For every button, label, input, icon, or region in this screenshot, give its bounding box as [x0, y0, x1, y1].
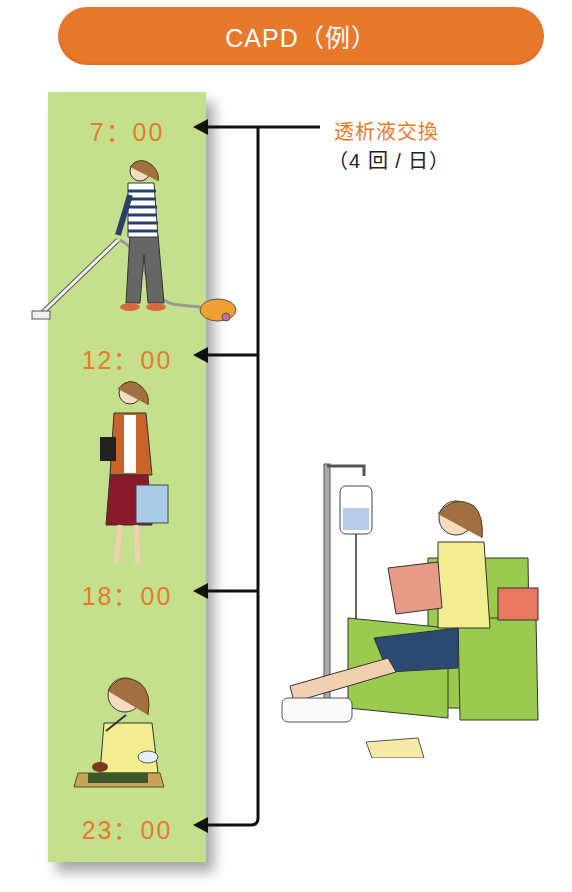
exchange-label-frequency: （4 回 / 日） — [328, 145, 450, 174]
time-1800: 18：00 — [48, 576, 206, 612]
eating-woman-illustration — [70, 665, 170, 795]
time-2300: 23：00 — [48, 810, 206, 846]
vacuuming-woman-illustration — [30, 155, 255, 330]
time-0700: 7：00 — [48, 112, 206, 148]
exchange-label-main: 透析液交換 — [334, 116, 450, 145]
time-1200: 12：00 — [48, 340, 206, 376]
shopping-woman-illustration — [96, 375, 176, 570]
title-text: CAPD（例） — [225, 18, 376, 54]
title-banner: CAPD（例） — [58, 7, 544, 65]
dialysis-exchange-scene-illustration — [278, 458, 548, 758]
exchange-label: 透析液交換 （4 回 / 日） — [334, 116, 450, 174]
